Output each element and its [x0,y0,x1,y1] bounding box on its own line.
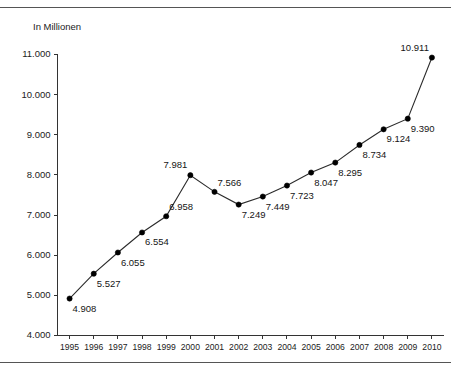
data-value-label: 5.527 [97,278,121,289]
data-value-label: 6.554 [145,236,169,247]
data-value-label: 4.908 [73,303,97,314]
data-point [91,271,96,276]
x-tick-label: 2007 [350,342,369,352]
y-tick-label: 6.000 [27,249,51,260]
x-tick-label: 2010 [422,342,441,352]
data-point [260,194,265,199]
data-value-label: 7.449 [266,201,290,212]
data-value-label: 7.723 [290,190,314,201]
y-tick-label: 8.000 [27,169,51,180]
y-tick-label: 10.000 [21,89,50,100]
data-value-label: 6.055 [121,257,145,268]
chart-page: In Millionen 4.0005.0006.0007.0008.0009.… [0,0,451,370]
data-value-label: 8.047 [314,177,338,188]
data-point [67,296,72,301]
x-tick-label: 2003 [253,342,272,352]
data-point [139,230,144,235]
data-value-label: 9.390 [411,123,435,134]
data-value-label: 7.249 [242,209,266,220]
y-axis: 4.0005.0006.0007.0008.0009.00010.00011.0… [21,48,57,340]
x-tick-label: 1999 [157,342,176,352]
x-tick-label: 2001 [205,342,224,352]
data-value-labels: 4.9085.5276.0556.5546.9587.9817.5667.249… [73,42,435,314]
bottom-divider [0,362,451,363]
data-point [188,173,193,178]
data-point [381,127,386,132]
data-point [357,142,362,147]
data-point [309,170,314,175]
data-point [284,183,289,188]
x-tick-label: 2009 [398,342,417,352]
x-tick-label: 2008 [374,342,393,352]
x-tick-group: 1995199619971998199920002001200220032004… [60,335,442,352]
data-point [212,189,217,194]
y-tick-label: 7.000 [27,209,51,220]
data-point [115,250,120,255]
x-tick-label: 2005 [302,342,321,352]
data-value-label: 7.566 [218,177,242,188]
data-value-label: 8.295 [338,167,362,178]
y-tick-group: 4.0005.0006.0007.0008.0009.00010.00011.0… [21,48,57,340]
data-value-label: 7.981 [164,159,188,170]
x-tick-label: 2006 [326,342,345,352]
line-chart: 4.0005.0006.0007.0008.0009.00010.00011.0… [0,0,451,360]
y-tick-label: 5.000 [27,289,51,300]
x-tick-label: 1995 [60,342,79,352]
data-point [429,55,434,60]
data-point [333,160,338,165]
data-point [164,214,169,219]
data-point [405,116,410,121]
data-value-label: 10.911 [401,42,429,53]
x-tick-label: 2000 [181,342,200,352]
x-tick-label: 1998 [132,342,151,352]
y-tick-label: 9.000 [27,129,51,140]
data-point [236,202,241,207]
data-value-label: 6.958 [169,201,193,212]
x-tick-label: 1996 [84,342,103,352]
x-axis: 1995199619971998199920002001200220032004… [58,335,445,352]
data-value-label: 9.124 [387,133,411,144]
y-tick-label: 4.000 [27,329,51,340]
x-tick-label: 2004 [277,342,296,352]
x-tick-label: 1997 [108,342,127,352]
data-value-label: 8.734 [362,149,386,160]
y-tick-label: 11.000 [22,48,50,59]
x-tick-label: 2002 [229,342,248,352]
